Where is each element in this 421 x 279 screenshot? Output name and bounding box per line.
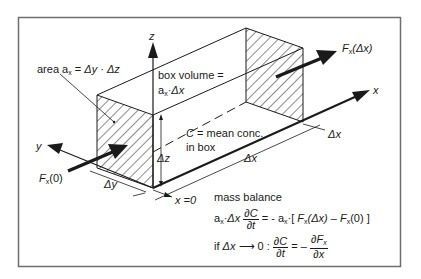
z-axis-label: z: [149, 30, 155, 42]
y-axis-arrowhead-icon: [47, 143, 63, 154]
mass-balance-equation: ax·Δx ∂C∂t = - ax·[ Fx(Δx) – Fx(0) ]: [214, 208, 370, 231]
mass-balance-title: mass balance: [214, 191, 282, 203]
flux-out-label: Fx(Δx): [342, 42, 372, 58]
box-volume-label: box volume =: [158, 69, 224, 81]
control-volume-diagram: z x y area ax = Δy · Δz box volume = ax·…: [0, 0, 421, 279]
delta-z-label: Δz: [157, 152, 170, 164]
x-axis-line: [153, 96, 357, 188]
x-axis-label: x: [373, 84, 379, 96]
flux-in-label: Fx(0): [39, 172, 63, 188]
box-volume-formula: ax·Δx: [158, 84, 184, 100]
x-axis-arrowhead-icon: [352, 90, 370, 102]
y-axis-label: y: [36, 140, 42, 152]
area-label: area ax = Δy · Δz: [37, 63, 120, 79]
delta-x-lower-label: Δx: [244, 152, 257, 164]
inflow-face-hatched: [97, 95, 153, 188]
limit-equation: if Δx ⟶ 0 : ∂C∂t = – ∂Fx∂x: [214, 234, 328, 260]
z-axis-arrowhead-icon: [148, 42, 158, 58]
mean-conc-label: C = mean conc.: [186, 127, 263, 139]
x-zero-label: x =0: [175, 194, 196, 206]
outflow-face-hatched: [246, 28, 303, 122]
delta-x-right-label: Δx: [328, 128, 341, 140]
delta-y-label: Δy: [104, 178, 117, 190]
mean-conc-label-line2: in box: [186, 141, 215, 153]
